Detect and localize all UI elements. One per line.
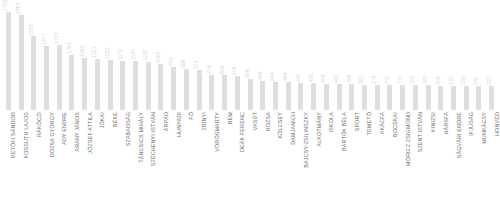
bar-value-label: 699 bbox=[220, 65, 225, 74]
bar-column[interactable]: 659 bbox=[231, 0, 244, 110]
bar[interactable] bbox=[464, 86, 469, 110]
category-label-slot: SÁGVÁRI ENDRE bbox=[447, 110, 460, 219]
bar[interactable] bbox=[171, 67, 176, 110]
bar[interactable] bbox=[120, 61, 125, 110]
category-label-slot: TEMETŐ bbox=[358, 110, 371, 219]
bar[interactable] bbox=[400, 85, 405, 110]
bar[interactable] bbox=[197, 70, 202, 110]
bar-column[interactable]: 2008 bbox=[27, 0, 40, 110]
bar[interactable] bbox=[248, 79, 253, 110]
bar-value-label: 404 bbox=[321, 74, 326, 83]
bar-column[interactable]: 1223 bbox=[91, 0, 104, 110]
bar[interactable] bbox=[108, 60, 113, 110]
bar-column[interactable]: 431 bbox=[307, 0, 320, 110]
bar[interactable] bbox=[95, 59, 100, 110]
bar-column[interactable]: 330 bbox=[473, 0, 486, 110]
bar[interactable] bbox=[133, 61, 138, 110]
bar-column[interactable]: 464 bbox=[269, 0, 282, 110]
bar[interactable] bbox=[31, 36, 36, 110]
category-label-slot: ARANY JÁNOS bbox=[66, 110, 79, 219]
bar-column[interactable]: 464 bbox=[282, 0, 295, 110]
bar-value-label: 320 bbox=[487, 77, 492, 86]
category-label-slot: BAJCSY-ZSILINSZKY bbox=[295, 110, 308, 219]
bar[interactable] bbox=[82, 58, 87, 110]
bar[interactable] bbox=[337, 84, 342, 110]
category-axis: PETŐFI SÁNDORKOSSUTH LAJOSRÁKÓCZIDÓZSA G… bbox=[2, 110, 498, 219]
bar[interactable] bbox=[6, 12, 11, 110]
bar-value-label: 338 bbox=[436, 76, 441, 85]
bar-column[interactable]: 353 bbox=[422, 0, 435, 110]
bar[interactable] bbox=[184, 69, 189, 110]
bar-column[interactable]: 442 bbox=[295, 0, 308, 110]
bar-column[interactable]: 335 bbox=[460, 0, 473, 110]
bar[interactable] bbox=[57, 45, 62, 110]
category-label-slot: SPORT bbox=[345, 110, 358, 219]
bar[interactable] bbox=[451, 86, 456, 110]
bar-column[interactable]: 1213 bbox=[104, 0, 117, 110]
bar[interactable] bbox=[286, 82, 291, 110]
bar-column[interactable]: 1701 bbox=[53, 0, 66, 110]
bar-column[interactable]: 377 bbox=[396, 0, 409, 110]
bar-column[interactable]: 871 bbox=[193, 0, 206, 110]
bar-value-label: 464 bbox=[270, 72, 275, 81]
bar-column[interactable]: 1677 bbox=[40, 0, 53, 110]
bar-column[interactable]: 370 bbox=[384, 0, 397, 110]
bar-column[interactable]: 388 bbox=[345, 0, 358, 110]
category-label-slot: MÓRICZ ZSIGMOND bbox=[396, 110, 409, 219]
category-label-slot: HÁRSFA bbox=[434, 110, 447, 219]
bar[interactable] bbox=[260, 81, 265, 110]
bar[interactable] bbox=[146, 62, 151, 110]
bar-column[interactable]: 353 bbox=[409, 0, 422, 110]
bar[interactable] bbox=[311, 83, 316, 110]
bar-column[interactable]: 484 bbox=[256, 0, 269, 110]
bar-column[interactable]: 1069 bbox=[155, 0, 168, 110]
bar-column[interactable]: 699 bbox=[218, 0, 231, 110]
bar-column[interactable]: 381 bbox=[358, 0, 371, 110]
bar-column[interactable]: 556 bbox=[244, 0, 257, 110]
bar[interactable] bbox=[324, 84, 329, 110]
bar[interactable] bbox=[375, 85, 380, 110]
bar[interactable] bbox=[209, 75, 214, 110]
bar[interactable] bbox=[158, 64, 163, 110]
bar-column[interactable]: 379 bbox=[371, 0, 384, 110]
bar[interactable] bbox=[362, 85, 367, 110]
bar-column[interactable]: 1172 bbox=[116, 0, 129, 110]
bar[interactable] bbox=[273, 82, 278, 110]
bar-column[interactable]: 400 bbox=[333, 0, 346, 110]
bar-value-label: 353 bbox=[423, 76, 428, 85]
bar[interactable] bbox=[349, 84, 354, 110]
bar-column[interactable]: 1128 bbox=[142, 0, 155, 110]
bar[interactable] bbox=[69, 55, 74, 110]
bar[interactable] bbox=[44, 46, 49, 110]
bar[interactable] bbox=[235, 76, 240, 110]
bar[interactable] bbox=[438, 86, 443, 110]
bar[interactable] bbox=[413, 85, 418, 110]
bar-column[interactable]: 337 bbox=[447, 0, 460, 110]
bar-column[interactable]: 2683 bbox=[15, 0, 28, 110]
bar-column[interactable]: 951 bbox=[167, 0, 180, 110]
bar-value-label: 2008 bbox=[29, 23, 34, 35]
bar[interactable] bbox=[222, 75, 227, 110]
category-label-slot: FŐ bbox=[180, 110, 193, 219]
category-label-slot: SZABADSÁG bbox=[116, 110, 129, 219]
bar-column[interactable]: 1155 bbox=[129, 0, 142, 110]
bar-value-label: 379 bbox=[372, 75, 377, 84]
bar-column[interactable]: 404 bbox=[320, 0, 333, 110]
bar[interactable] bbox=[476, 86, 481, 110]
bar[interactable] bbox=[426, 85, 431, 110]
category-label-slot: RÓZSA bbox=[256, 110, 269, 219]
bar[interactable] bbox=[298, 83, 303, 110]
bar-column[interactable]: 2792 bbox=[2, 0, 15, 110]
bar-column[interactable]: 1263 bbox=[78, 0, 91, 110]
bar-value-label: 1172 bbox=[118, 49, 123, 60]
bar[interactable] bbox=[489, 86, 494, 110]
bar-column[interactable]: 320 bbox=[485, 0, 498, 110]
category-label-slot: BÉKE bbox=[104, 110, 117, 219]
category-label-slot: DEÁK FERENC bbox=[231, 110, 244, 219]
bar-column[interactable]: 704 bbox=[206, 0, 219, 110]
bar-column[interactable]: 1354 bbox=[66, 0, 79, 110]
bar-column[interactable]: 886 bbox=[180, 0, 193, 110]
bar-column[interactable]: 338 bbox=[434, 0, 447, 110]
bar[interactable] bbox=[19, 15, 24, 110]
bar[interactable] bbox=[387, 85, 392, 110]
